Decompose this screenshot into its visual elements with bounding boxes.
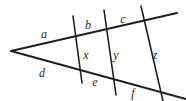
geometry-figure: a b c d e f x y z [0,0,186,101]
label-c: c [120,13,125,25]
label-x: x [83,49,88,61]
label-e: e [92,76,97,88]
lower-ray-line [11,51,186,99]
transversal-line-1 [73,16,82,83]
label-d: d [39,67,45,79]
label-f: f [131,87,134,99]
label-a: a [41,28,47,40]
label-y: y [113,49,118,61]
upper-ray-line [11,13,177,51]
label-z: z [153,49,158,61]
label-b: b [85,19,91,31]
